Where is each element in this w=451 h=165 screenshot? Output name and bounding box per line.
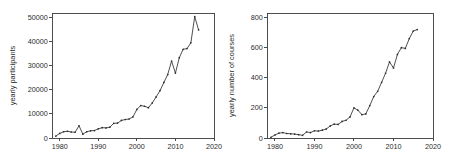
- yearly-number-of-courses-plot: 020040060080019801990200020102020yearly …: [225, 0, 451, 165]
- y-axis-title: yearly number of courses: [227, 34, 236, 117]
- x-tick-label: 2010: [167, 142, 183, 151]
- data-point-marker: [310, 132, 312, 134]
- data-point-marker: [63, 131, 65, 133]
- y-tick-label: 400: [251, 73, 263, 82]
- data-point-marker: [274, 134, 276, 136]
- data-point-marker: [412, 30, 414, 32]
- data-point-marker: [182, 48, 184, 50]
- x-tick-label: 2000: [346, 142, 362, 151]
- data-point-marker: [186, 48, 188, 50]
- data-point-marker: [408, 38, 410, 40]
- data-point-marker: [416, 29, 418, 31]
- data-point-marker: [306, 131, 308, 133]
- chart-panel-yearly-number-of-courses: 020040060080019801990200020102020yearly …: [225, 0, 451, 165]
- data-point-marker: [349, 116, 351, 118]
- data-point-marker: [286, 133, 288, 135]
- data-point-marker: [282, 132, 284, 134]
- data-point-marker: [290, 133, 292, 135]
- data-point-marker: [325, 128, 327, 130]
- data-point-marker: [171, 60, 173, 62]
- data-point-marker: [337, 124, 339, 126]
- data-point-marker: [151, 102, 153, 104]
- y-tick-label: 50000: [28, 13, 48, 22]
- data-point-marker: [190, 42, 192, 44]
- data-point-marker: [94, 130, 96, 132]
- data-point-marker: [113, 122, 115, 124]
- y-tick-label: 800: [251, 13, 263, 22]
- data-point-marker: [318, 130, 320, 132]
- data-point-marker: [109, 126, 111, 128]
- data-point-marker: [361, 114, 363, 116]
- data-point-marker: [345, 119, 347, 121]
- plot-frame: [267, 13, 433, 138]
- data-point-marker: [132, 116, 134, 118]
- data-point-marker: [117, 122, 119, 124]
- y-tick-label: 600: [251, 43, 263, 52]
- data-point-marker: [90, 130, 92, 132]
- data-point-marker: [385, 72, 387, 74]
- data-point-marker: [140, 105, 142, 107]
- data-point-marker: [377, 90, 379, 92]
- y-tick-label: 0: [259, 134, 263, 143]
- chart-panel-yearly-participants: 0100002000030000400005000019801990200020…: [0, 0, 225, 165]
- data-point-marker: [159, 90, 161, 92]
- data-point-marker: [155, 96, 157, 98]
- data-point-marker: [97, 128, 99, 130]
- data-point-marker: [341, 121, 343, 123]
- x-tick-label: 2020: [206, 142, 222, 151]
- data-point-marker: [86, 131, 88, 133]
- data-point-marker: [82, 133, 84, 135]
- data-point-marker: [128, 118, 130, 120]
- data-point-marker: [333, 123, 335, 125]
- data-point-marker: [67, 130, 69, 132]
- y-tick-label: 30000: [28, 61, 48, 70]
- data-point-marker: [353, 107, 355, 109]
- x-tick-label: 2010: [385, 142, 401, 151]
- x-tick-label: 1990: [90, 142, 106, 151]
- x-tick-label: 1980: [52, 142, 68, 151]
- data-point-marker: [163, 82, 165, 84]
- data-point-marker: [389, 61, 391, 63]
- y-tick-label: 40000: [28, 37, 48, 46]
- data-point-marker: [55, 135, 57, 137]
- data-point-marker: [194, 16, 196, 18]
- data-point-marker: [105, 127, 107, 129]
- x-tick-label: 1980: [267, 142, 283, 151]
- data-point-marker: [381, 81, 383, 83]
- data-point-marker: [357, 109, 359, 111]
- data-point-marker: [397, 54, 399, 56]
- plot-frame: [52, 13, 214, 138]
- data-point-marker: [270, 136, 272, 138]
- y-tick-label: 10000: [28, 109, 48, 118]
- data-point-marker: [144, 105, 146, 107]
- data-point-marker: [148, 107, 150, 109]
- data-point-marker: [294, 133, 296, 135]
- data-point-marker: [136, 109, 138, 111]
- data-point-marker: [393, 67, 395, 69]
- data-point-marker: [101, 127, 103, 129]
- y-tick-label: 0: [44, 134, 48, 143]
- y-tick-label: 200: [251, 103, 263, 112]
- data-point-marker: [365, 113, 367, 115]
- data-point-marker: [314, 130, 316, 132]
- data-series-line: [271, 30, 417, 138]
- data-point-marker: [298, 134, 300, 136]
- y-tick-label: 20000: [28, 85, 48, 94]
- yearly-participants-plot: 0100002000030000400005000019801990200020…: [0, 0, 225, 165]
- data-point-marker: [321, 129, 323, 131]
- x-tick-label: 1990: [306, 142, 322, 151]
- data-point-marker: [70, 131, 72, 133]
- two-panel-line-chart-figure: 0100002000030000400005000019801990200020…: [0, 0, 451, 165]
- data-point-marker: [124, 119, 126, 121]
- data-point-marker: [178, 57, 180, 59]
- data-point-marker: [167, 74, 169, 76]
- data-point-marker: [198, 29, 200, 31]
- data-point-marker: [175, 72, 177, 74]
- data-point-marker: [302, 134, 304, 136]
- data-point-marker: [278, 132, 280, 134]
- data-point-marker: [373, 96, 375, 98]
- data-point-marker: [369, 105, 371, 107]
- data-point-marker: [121, 120, 123, 122]
- data-point-marker: [401, 47, 403, 49]
- data-point-marker: [78, 125, 80, 127]
